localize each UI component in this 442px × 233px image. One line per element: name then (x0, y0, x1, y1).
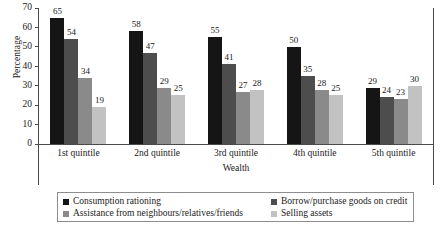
y-tick-label: 50 (23, 42, 36, 52)
bar-value-label: 41 (224, 53, 233, 62)
legend-swatch (63, 199, 69, 205)
bar-value-label: 58 (132, 20, 141, 29)
bar-slot: 54 (64, 8, 78, 144)
legend-swatch (271, 199, 277, 205)
x-tick-label: 4th quintile (275, 148, 354, 158)
plot-area: 6554341958472925554127285035282529242330 (39, 8, 433, 144)
legend-row-1: Consumption rationingBorrow/purchase goo… (63, 196, 408, 208)
y-tick: 10 (23, 120, 39, 130)
bar[interactable] (129, 31, 143, 144)
bar-slot: 19 (92, 8, 106, 144)
bar[interactable] (315, 90, 329, 144)
legend-item[interactable]: Consumption rationing (63, 197, 271, 207)
bar-value-label: 47 (146, 42, 155, 51)
y-tick: 20 (23, 100, 39, 110)
bar-value-label: 55 (210, 26, 219, 35)
bar-value-label: 50 (289, 36, 298, 45)
bar-slot: 58 (129, 8, 143, 144)
bar[interactable] (366, 88, 380, 144)
legend-item[interactable]: Borrow/purchase goods on credit (271, 197, 407, 207)
bar[interactable] (394, 99, 408, 144)
legend-label: Assistance from neighbours/relatives/fri… (73, 209, 243, 219)
bar-slot: 30 (408, 8, 422, 144)
bar-group: 50352825 (275, 8, 354, 144)
bar[interactable] (78, 78, 92, 144)
bar-slot: 29 (157, 8, 171, 144)
bar-slot: 50 (287, 8, 301, 144)
bar-value-label: 29 (368, 77, 377, 86)
y-tick: 40 (23, 61, 39, 71)
legend-label: Borrow/purchase goods on credit (281, 197, 407, 207)
legend-swatch (271, 211, 277, 217)
bar-slot: 25 (329, 8, 343, 144)
bar[interactable] (157, 88, 171, 144)
legend: Consumption rationingBorrow/purchase goo… (57, 192, 414, 222)
x-tick-label: 3rd quintile (197, 148, 276, 158)
y-axis-ticks: 010203040506070 (0, 0, 38, 145)
bar-value-label: 25 (174, 84, 183, 93)
bar[interactable] (408, 86, 422, 144)
y-tick-label: 30 (23, 81, 36, 91)
bar-group: 65543419 (39, 8, 118, 144)
bar-slot: 41 (222, 8, 236, 144)
bar-slot: 25 (171, 8, 185, 144)
y-tick-label: 60 (23, 23, 36, 33)
x-tick-label: 2nd quintile (118, 148, 197, 158)
bar[interactable] (236, 92, 250, 144)
y-tick: 0 (27, 139, 38, 149)
bar-value-label: 65 (53, 7, 62, 16)
bar-set: 55412728 (208, 8, 264, 144)
bar-slot: 55 (208, 8, 222, 144)
y-tick: 30 (23, 81, 39, 91)
bar-slot: 28 (315, 8, 329, 144)
y-tick-label: 20 (23, 100, 36, 110)
bar-slot: 65 (50, 8, 64, 144)
bar[interactable] (92, 107, 106, 144)
x-tick-label: 5th quintile (354, 148, 433, 158)
bar-slot: 34 (78, 8, 92, 144)
grouped-bar-chart: Percentage 010203040506070 6554341958472… (0, 0, 442, 233)
bar-set: 65543419 (50, 8, 106, 144)
bar[interactable] (250, 90, 264, 144)
bar-slot: 29 (366, 8, 380, 144)
bar-value-label: 28 (317, 79, 326, 88)
bar-group: 58472925 (118, 8, 197, 144)
bar-value-label: 23 (396, 88, 405, 97)
bar[interactable] (301, 76, 315, 144)
x-axis-title: Wealth (39, 163, 433, 173)
bar-group: 55412728 (197, 8, 276, 144)
bar-set: 58472925 (129, 8, 185, 144)
plot-right-rail (433, 8, 434, 185)
bar[interactable] (222, 64, 236, 144)
bar-value-label: 34 (81, 67, 90, 76)
legend-item[interactable]: Selling assets (271, 209, 332, 219)
y-tick: 60 (23, 22, 39, 32)
legend-item[interactable]: Assistance from neighbours/relatives/fri… (63, 209, 271, 219)
bar-slot: 47 (143, 8, 157, 144)
bar-value-label: 30 (410, 75, 419, 84)
bar[interactable] (287, 47, 301, 144)
bar-value-label: 25 (331, 84, 340, 93)
bar-value-label: 35 (303, 65, 312, 74)
bar[interactable] (380, 97, 394, 144)
bar-set: 29242330 (366, 8, 422, 144)
bar[interactable] (329, 95, 343, 144)
y-tick-label: 70 (23, 3, 36, 13)
bar[interactable] (50, 18, 64, 144)
bar-value-label: 19 (95, 96, 104, 105)
bar[interactable] (64, 39, 78, 144)
y-tick-label: 40 (23, 62, 36, 72)
x-axis-tick-labels: 1st quintile2nd quintile3rd quintile4th … (39, 148, 433, 158)
bar[interactable] (143, 53, 157, 144)
legend-label: Selling assets (281, 209, 332, 219)
bar-slot: 27 (236, 8, 250, 144)
bar[interactable] (208, 37, 222, 144)
bar[interactable] (171, 95, 185, 144)
bar-value-label: 28 (252, 79, 261, 88)
bar-set: 50352825 (287, 8, 343, 144)
x-tick-label: 1st quintile (39, 148, 118, 158)
bar-groups: 6554341958472925554127285035282529242330 (39, 8, 433, 144)
bar-value-label: 54 (67, 28, 76, 37)
bar-slot: 35 (301, 8, 315, 144)
bar-slot: 23 (394, 8, 408, 144)
